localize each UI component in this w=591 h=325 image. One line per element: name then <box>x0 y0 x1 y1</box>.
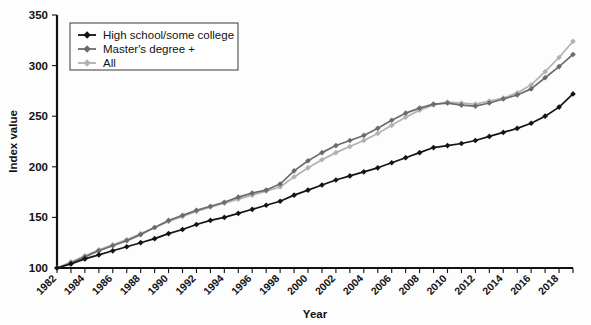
legend: High school/some collegeMaster's degree … <box>70 23 238 70</box>
x-tick-label: 1998 <box>257 272 282 297</box>
data-point-marker <box>152 236 158 242</box>
x-tick-label: 2012 <box>452 272 477 297</box>
x-tick-label: 2002 <box>312 272 337 297</box>
data-point-marker <box>194 222 200 228</box>
data-point-marker <box>403 155 409 161</box>
data-point-marker <box>263 202 269 208</box>
data-point-marker <box>249 206 255 212</box>
x-tick-label: 1984 <box>61 272 86 297</box>
y-tick-label: 100 <box>29 262 48 274</box>
chart-canvas: 1001502002503003501982198419861988199019… <box>0 0 591 325</box>
y-tick-label: 150 <box>29 211 48 223</box>
series-line <box>57 41 573 268</box>
data-point-marker <box>235 211 241 217</box>
data-point-marker <box>417 150 423 156</box>
data-point-marker <box>110 248 116 254</box>
data-point-marker <box>389 160 395 166</box>
data-point-marker <box>347 138 353 144</box>
data-point-marker <box>347 144 353 150</box>
x-axis-title: Year <box>303 308 328 320</box>
x-tick-label: 2000 <box>284 272 309 297</box>
x-tick-label: 1996 <box>229 272 254 297</box>
data-point-marker <box>305 187 311 193</box>
data-point-marker <box>277 198 283 204</box>
data-point-marker <box>124 244 130 250</box>
series-2 <box>54 38 576 270</box>
series-line <box>57 94 573 268</box>
data-point-marker <box>445 143 451 149</box>
data-point-marker <box>152 225 158 231</box>
x-tick-label: 1992 <box>173 272 198 297</box>
data-point-marker <box>500 130 506 136</box>
data-point-marker <box>361 138 367 144</box>
data-point-marker <box>333 150 339 156</box>
data-point-marker <box>361 133 367 139</box>
data-point-marker <box>459 141 465 147</box>
data-point-marker <box>486 134 492 140</box>
line-chart: 1001502002503003501982198419861988199019… <box>0 0 591 325</box>
data-point-marker <box>96 252 102 258</box>
y-tick-label: 250 <box>29 110 48 122</box>
x-tick-label: 2008 <box>396 272 421 297</box>
data-point-marker <box>333 143 339 149</box>
data-point-marker <box>333 177 339 183</box>
data-point-marker <box>361 169 367 175</box>
data-point-marker <box>222 215 228 221</box>
x-tick-label: 2006 <box>368 272 393 297</box>
x-tick-label: 2014 <box>480 272 505 297</box>
data-point-marker <box>166 231 172 237</box>
data-point-marker <box>347 173 353 179</box>
data-point-marker <box>180 227 186 233</box>
x-tick-label: 2010 <box>424 272 449 297</box>
x-tick-label: 1988 <box>117 272 142 297</box>
series-0 <box>54 91 576 271</box>
data-point-marker <box>291 192 297 198</box>
data-point-marker <box>431 145 437 151</box>
x-tick-label: 1982 <box>33 272 58 297</box>
x-tick-label: 1994 <box>201 272 226 297</box>
data-point-marker <box>319 182 325 188</box>
x-tick-label: 2018 <box>535 272 560 297</box>
data-point-marker <box>54 265 60 271</box>
series-1 <box>54 52 576 271</box>
data-point-marker <box>403 110 409 116</box>
x-tick-label: 1990 <box>145 272 170 297</box>
x-tick-label: 1986 <box>89 272 114 297</box>
x-tick-label: 2004 <box>340 272 365 297</box>
legend-label-1: Master's degree + <box>103 43 195 55</box>
data-point-marker <box>375 165 381 171</box>
data-point-marker <box>445 100 451 106</box>
y-tick-label: 350 <box>29 9 48 21</box>
data-point-marker <box>473 138 479 144</box>
data-point-marker <box>138 240 144 246</box>
data-point-marker <box>514 126 520 132</box>
legend-label-0: High school/some college <box>103 29 234 41</box>
x-tick-label: 2016 <box>508 272 533 297</box>
data-point-marker <box>528 120 534 126</box>
y-tick-label: 300 <box>29 60 48 72</box>
y-tick-label: 200 <box>29 161 48 173</box>
legend-label-2: All <box>103 57 116 69</box>
data-point-marker <box>208 218 214 224</box>
y-axis-title: Index value <box>7 110 19 173</box>
